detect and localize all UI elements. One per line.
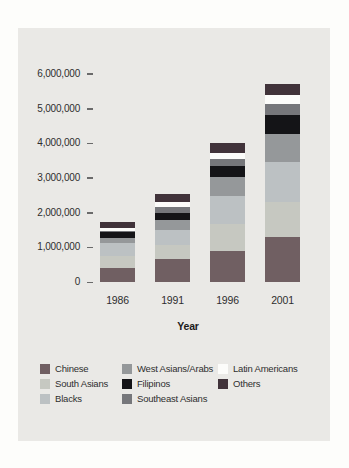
y-tick-dash [87, 177, 93, 179]
bar-segment-1996-latin-americans [210, 153, 245, 160]
y-tick-label: 4,000,000 [18, 138, 80, 148]
legend-swatch-filipinos [122, 379, 132, 389]
bar-segment-1996-southeast-asians [210, 159, 245, 166]
legend-swatch-south-asians [40, 379, 50, 389]
bar-segment-1986-south-asians [100, 256, 135, 268]
bar-segment-1996-south-asians [210, 224, 245, 251]
legend-swatch-chinese [40, 364, 50, 374]
legend-label: South Asians [55, 379, 108, 390]
bar-segment-1991-blacks [155, 230, 190, 245]
y-tick-label: 3,000,000 [18, 173, 80, 183]
y-tick-label: 0 [18, 277, 80, 287]
bar-segment-1996-others [210, 143, 245, 153]
bar-segment-2001-southeast-asians [265, 104, 300, 116]
legend-label: Latin Americans [233, 364, 298, 375]
bar-segment-1996-blacks [210, 196, 245, 224]
bar-segment-2001-latin-americans [265, 95, 300, 104]
legend-label: West Asians/Arabs [137, 364, 213, 375]
y-tick-label: 2,000,000 [18, 208, 80, 218]
legend-label: Chinese [55, 364, 88, 375]
bar-segment-1991-south-asians [155, 245, 190, 260]
y-tick-dash [87, 212, 93, 214]
bar-1996 [210, 143, 245, 282]
x-tick-label-1991: 1991 [151, 294, 195, 306]
legend-label: Others [233, 379, 260, 390]
bar-2001 [265, 84, 300, 282]
bar-segment-1986-chinese [100, 268, 135, 282]
y-tick-dash [87, 143, 93, 145]
x-tick-label-1986: 1986 [96, 294, 140, 306]
bar-segment-1986-blacks [100, 243, 135, 255]
legend-label: Blacks [55, 394, 82, 405]
bar-segment-1996-west-asians-arabs [210, 177, 245, 196]
x-tick-label-2001: 2001 [261, 294, 305, 306]
bar-segment-2001-west-asians-arabs [265, 134, 300, 162]
y-tick-dash [87, 73, 93, 75]
bar-segment-1991-chinese [155, 259, 190, 282]
bar-segment-1996-chinese [210, 251, 245, 282]
x-tick-label-1996: 1996 [206, 294, 250, 306]
y-tick-label: 6,000,000 [18, 69, 80, 79]
y-tick-dash [87, 247, 93, 249]
bar-1986 [100, 222, 135, 282]
y-tick-dash [87, 282, 93, 284]
figure-page: 01,000,0002,000,0003,000,0004,000,0005,0… [0, 0, 349, 468]
bar-segment-2001-blacks [265, 162, 300, 202]
bar-segment-2001-filipinos [265, 115, 300, 133]
y-tick-label: 1,000,000 [18, 242, 80, 252]
bar-segment-2001-others [265, 84, 300, 95]
bar-1991 [155, 194, 190, 282]
legend-label: Southeast Asians [137, 394, 207, 405]
bar-segment-1991-filipinos [155, 213, 190, 220]
bar-segment-1996-filipinos [210, 166, 245, 177]
y-tick-label: 5,000,000 [18, 104, 80, 114]
bar-segment-1991-west-asians-arabs [155, 220, 190, 230]
legend-label: Filipinos [137, 379, 170, 390]
bar-segment-1991-others [155, 194, 190, 202]
bar-segment-2001-chinese [265, 237, 300, 282]
legend-swatch-southeast-asians [122, 394, 132, 404]
bar-segment-2001-south-asians [265, 202, 300, 237]
y-tick-dash [87, 108, 93, 110]
chart-panel: 01,000,0002,000,0003,000,0004,000,0005,0… [18, 28, 330, 441]
legend-swatch-west-asians-arabs [122, 364, 132, 374]
legend-swatch-latin-americans [218, 364, 228, 374]
x-axis-title: Year [138, 320, 238, 332]
legend-swatch-blacks [40, 394, 50, 404]
legend-swatch-others [218, 379, 228, 389]
